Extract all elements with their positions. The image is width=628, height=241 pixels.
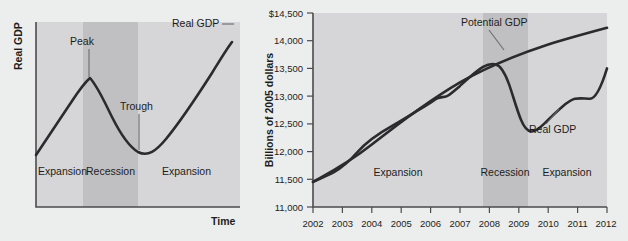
x-tick-label: 2002 [302,218,323,229]
left-axis-title-y: Real GDP [12,22,24,70]
left-band-expansion-2 [138,22,240,207]
x-tick-label: 2007 [449,218,470,229]
right-label-potential-gdp: Potential GDP [461,16,528,28]
right-x-tick-labels: 2002 2003 2004 2005 2006 2007 2008 2009 … [302,218,616,229]
right-chart-svg: $14,500 14,000 13,500 13,000 12,500 12,0… [256,0,628,241]
x-tick-label: 2005 [391,218,412,229]
left-band-label-expansion-2: Expansion [162,165,211,177]
right-band-label-recession: Recession [480,166,529,178]
y-tick-label: 11,000 [275,202,303,213]
left-band-label-expansion-1: Expansion [38,165,87,177]
y-tick-label: $14,500 [269,8,303,19]
left-label-trough: Trough [120,100,153,112]
x-tick-label: 2012 [595,218,616,229]
y-tick-label: 13,000 [274,91,303,102]
y-tick-label: 12,000 [274,146,303,157]
right-x-ticks [313,207,607,213]
right-label-real-gdp: Real GDP [529,123,576,135]
left-label-real-gdp: Real GDP [172,17,219,29]
x-tick-label: 2003 [332,218,353,229]
x-tick-label: 2009 [508,218,529,229]
x-tick-label: 2010 [538,218,559,229]
x-tick-label: 2011 [567,218,587,229]
right-band-label-expansion-1: Expansion [373,166,422,178]
left-axis-title-x: Time [211,215,235,227]
y-tick-label: 13,500 [274,63,303,74]
x-tick-label: 2004 [361,218,382,229]
x-tick-label: 2008 [479,218,500,229]
x-tick-label: 2006 [420,218,441,229]
left-band-label-recession: Recession [86,165,135,177]
right-axis-title-y: Billions of 2005 dollars [263,53,275,168]
y-tick-label: 12,500 [274,118,303,129]
y-tick-label: 14,000 [274,35,303,46]
y-tick-label: 11,500 [275,174,303,185]
right-y-ticks [307,13,313,207]
left-label-peak: Peak [70,35,95,47]
panel-us-real-and-potential-gdp: $14,500 14,000 13,500 13,000 12,500 12,0… [256,0,628,241]
left-band-expansion-1 [36,22,83,207]
figure-root: Peak Trough Real GDP Expansion Recession… [0,0,628,241]
right-band-label-expansion-2: Expansion [542,166,591,178]
